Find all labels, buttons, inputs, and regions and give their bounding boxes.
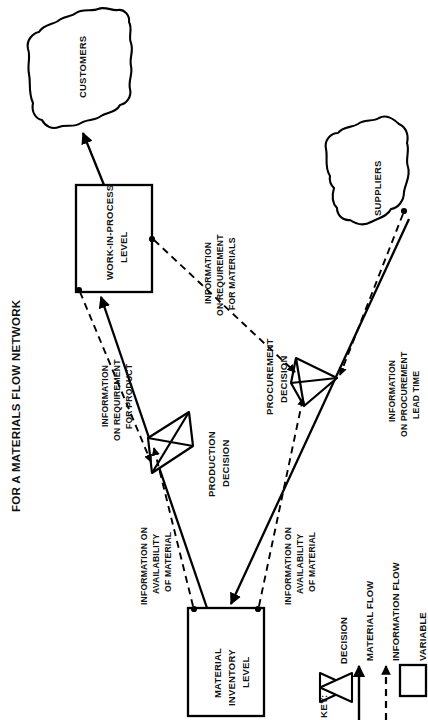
production-decision-valve <box>148 412 193 473</box>
info-label-lead-time-line2: ON PROCUREMENT <box>399 352 409 437</box>
production-decision-label-line2: DECISION <box>220 439 231 487</box>
info-label-req-product-line2: ON REQUIREMENT <box>112 359 122 441</box>
info-label-avail-left-line2: AVAILABILITY <box>151 534 161 594</box>
key-item-label-information-flow: INFORMATION FLOW <box>390 562 401 661</box>
procurement-decision-valve <box>291 358 337 406</box>
production-decision-label-line1: PRODUCTION <box>206 431 217 497</box>
info-label-lead-time-line3: LEAD TIME <box>411 371 421 419</box>
key-item-label-variable: VARIABLE <box>417 612 428 661</box>
key-item-label-decision: DECISION <box>338 617 349 664</box>
info-label-lead-time-line1: INFORMATION <box>387 360 397 422</box>
info-label-req-product-line1: INFORMATION <box>100 365 110 427</box>
work-in-process-label-line1: WORK-IN-PROCESS <box>104 185 115 280</box>
work-in-process-label-line2: LEVEL <box>118 231 129 263</box>
figure-title: FOR A MATERIALS FLOW NETWORK <box>10 300 24 512</box>
info-label-avail-left-line1: INFORMATION ON <box>139 527 149 605</box>
procurement-decision-label-line1: PROCUREMENT <box>264 338 275 415</box>
info-label-avail-right-line3: OF MATERIAL <box>307 532 317 592</box>
suppliers-label: SUPPLIERS <box>372 160 383 216</box>
procurement-decision-label-line2: DECISION <box>278 355 289 403</box>
key-header: KEY: <box>318 695 330 718</box>
material-flow-wip-to-customers <box>83 133 104 185</box>
customers-label: CUSTOMERS <box>77 36 88 98</box>
material-inventory-label-line1: MATERIAL <box>212 648 223 698</box>
material-inventory-label-line3: LEVEL <box>240 656 251 688</box>
key-item-label-material-flow: MATERIAL FLOW <box>364 581 375 661</box>
info-label-req-product-line3: FOR PRODUCT <box>124 364 134 429</box>
info-label-req-materials-line2: ON REQUIREMENT <box>215 234 225 316</box>
info-flow-procurement-lead-time <box>340 208 407 375</box>
info-label-avail-left-line3: OF MATERIAL <box>163 532 173 592</box>
info-label-avail-right-line1: INFORMATION ON <box>283 527 293 605</box>
key-symbol-variable-box <box>400 665 426 696</box>
info-label-req-materials-line1: INFORMATION <box>203 242 213 304</box>
material-inventory-label-line2: INVENTORY <box>226 649 237 706</box>
info-label-avail-right-line2: AVAILABILITY <box>295 534 305 594</box>
material-flow-suppliers-to-inventory <box>231 219 409 604</box>
suppliers-cloud <box>326 117 409 225</box>
figure-canvas: FOR A MATERIALS FLOW NETWORK CUSTOMERS S… <box>0 0 428 720</box>
info-label-req-materials-line3: FOR MATERIALS <box>227 237 237 310</box>
